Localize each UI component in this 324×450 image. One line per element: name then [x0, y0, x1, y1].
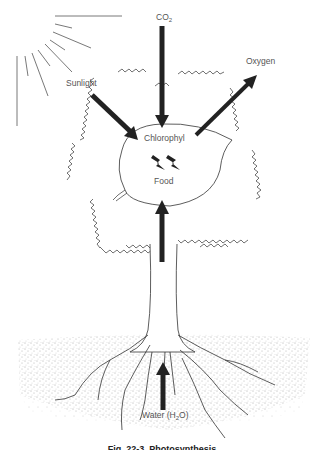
co2-arrow — [155, 26, 169, 128]
lightning-icon — [151, 155, 180, 170]
photosynthesis-diagram — [0, 0, 324, 450]
leaf-stem — [113, 190, 127, 201]
co2-label: CO2 — [156, 12, 172, 23]
oxygen-label: Oxygen — [246, 56, 275, 66]
oxygen-arrow — [196, 75, 257, 135]
chlorophyl-label: Chlorophyl — [144, 133, 185, 143]
figure-caption: Fig. 22-3. Photosynthesis — [0, 442, 324, 450]
water-label: Water (H2O) — [142, 410, 188, 421]
sunlight-label: Sunlight — [66, 78, 97, 88]
food-label: Food — [154, 176, 173, 186]
sunlight-arrow — [92, 95, 138, 140]
